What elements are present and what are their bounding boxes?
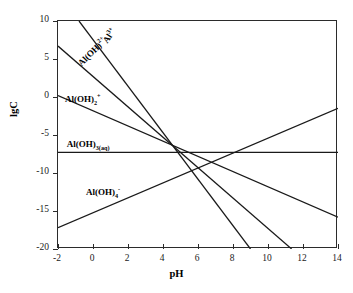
x-tick-label: 4 — [147, 254, 177, 264]
x-tick-label: -2 — [42, 254, 72, 264]
x-tick-label: 6 — [182, 254, 212, 264]
y-axis-title: lgC — [8, 101, 19, 117]
x-tick-label: 2 — [112, 254, 142, 264]
y-tick — [53, 173, 58, 174]
curve-0 — [79, 21, 251, 249]
x-axis-title: pH — [0, 268, 353, 279]
x-tick-label: 0 — [77, 254, 107, 264]
label-superscript: + — [97, 92, 101, 99]
x-tick — [233, 244, 234, 249]
y-tick-label: -10 — [11, 167, 49, 177]
curve-2 — [58, 95, 338, 217]
speciation-diagram-figure: lgC pH 1050-5-10-15-20 -202468101214 Al3… — [0, 0, 353, 293]
y-tick-label: -20 — [11, 243, 49, 253]
y-tick-label: -5 — [11, 129, 49, 139]
label-subscript: 2 — [94, 99, 97, 106]
label-base: Al(OH) — [67, 139, 96, 149]
y-tick — [53, 135, 58, 136]
y-tick — [53, 211, 58, 212]
label-base: Al(OH) — [65, 94, 94, 104]
curve-label-aloh3aq: Al(OH)3(aq) — [67, 140, 110, 149]
x-tick — [128, 244, 129, 249]
y-tick — [53, 59, 58, 60]
y-tick-label: 0 — [11, 91, 49, 101]
x-tick — [268, 244, 269, 249]
curve-4 — [58, 108, 338, 227]
label-subscript: 4 — [115, 192, 118, 199]
y-tick-label: 5 — [11, 53, 49, 63]
curve-label-aloh4: Al(OH)4- — [86, 188, 120, 197]
y-tick — [53, 21, 58, 22]
x-tick — [58, 244, 59, 249]
label-subscript: 3(aq) — [96, 143, 110, 150]
x-tick-label: 14 — [322, 254, 352, 264]
x-tick — [303, 244, 304, 249]
x-tick — [198, 244, 199, 249]
plot-area: Al3+Al(OH)2+Al(OH)2+Al(OH)3(aq)Al(OH)4- — [57, 20, 337, 248]
x-tick-label: 8 — [217, 254, 247, 264]
x-tick — [93, 244, 94, 249]
curves-layer — [58, 21, 338, 249]
x-tick — [163, 244, 164, 249]
label-superscript: - — [118, 185, 120, 192]
label-base: Al(OH) — [86, 187, 115, 197]
x-tick-label: 10 — [252, 254, 282, 264]
y-tick-label: -15 — [11, 205, 49, 215]
y-tick — [53, 249, 58, 250]
y-tick — [53, 97, 58, 98]
curve-label-aloh2plus: Al(OH)2+ — [65, 95, 101, 104]
x-tick — [338, 244, 339, 249]
x-tick-label: 12 — [287, 254, 317, 264]
y-tick-label: 10 — [11, 15, 49, 25]
